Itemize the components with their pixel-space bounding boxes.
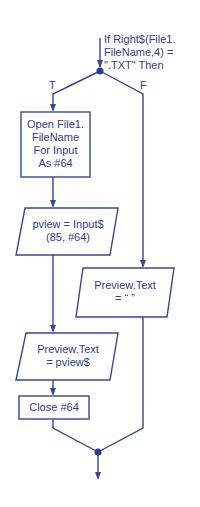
- preview-pview-line-1: Preview.Text: [18, 343, 118, 356]
- decision-junction-dot: [97, 68, 104, 75]
- merge-junction-dot: [95, 449, 102, 456]
- open-file-line-1: Open File1.: [21, 118, 90, 131]
- preview-pview-line-2: = pview$: [18, 356, 118, 369]
- open-file-line-3: For Input: [21, 144, 90, 157]
- arrowhead-icon: [50, 200, 56, 208]
- false-branch-label: F: [140, 79, 147, 92]
- input-pview-line-2: (85, #64): [18, 231, 118, 244]
- exit-arrowhead-icon: [95, 472, 101, 480]
- true-branch-label: T: [49, 79, 56, 92]
- decision-line-1: If Right$(File1.: [104, 33, 176, 46]
- decision-line-2: FileName,4) =: [104, 46, 176, 59]
- preview-pview-label: Preview.Text = pview$: [18, 343, 118, 369]
- open-file-line-2: FileName: [21, 131, 90, 144]
- preview-empty-line-2: = “ ”: [76, 292, 174, 305]
- arrowhead-icon: [50, 325, 56, 333]
- input-pview-label: pview = Input$ (85, #64): [18, 218, 118, 244]
- decision-condition: If Right$(File1. FileName,4) = ".TXT" Th…: [104, 33, 176, 72]
- input-pview-line-1: pview = Input$: [18, 218, 118, 231]
- decision-line-3: ".TXT" Then: [104, 59, 176, 72]
- close-file-line-1: Close #64: [19, 401, 89, 414]
- arrowhead-icon: [50, 388, 56, 396]
- false-arrowhead-icon: [140, 260, 146, 268]
- true-branch-line: [53, 71, 100, 110]
- flowchart-canvas: [0, 0, 200, 507]
- open-file-label: Open File1. FileName For Input As #64: [21, 118, 90, 170]
- open-file-line-4: As #64: [21, 157, 90, 170]
- merge-left-line: [53, 419, 98, 452]
- preview-empty-line-1: Preview.Text: [76, 279, 174, 292]
- entry-arrowhead-icon: [97, 60, 103, 68]
- preview-empty-label: Preview.Text = “ ”: [76, 279, 174, 305]
- close-file-label: Close #64: [19, 401, 89, 414]
- true-arrowhead-icon: [50, 104, 56, 112]
